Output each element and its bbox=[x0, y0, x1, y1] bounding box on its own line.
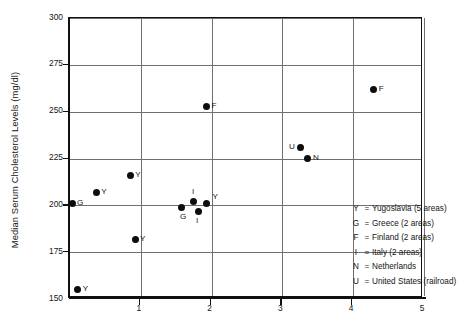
data-point bbox=[195, 208, 202, 215]
gridline-horizontal bbox=[70, 112, 421, 113]
legend-label: Italy (2 areas) bbox=[372, 248, 461, 257]
legend-label: Finland (2 areas) bbox=[372, 233, 461, 242]
legend-key: Y bbox=[350, 204, 362, 213]
data-point-label: U bbox=[289, 143, 295, 151]
gridline-vertical bbox=[282, 18, 283, 296]
data-point-label: G bbox=[180, 213, 186, 221]
legend: Y=Yugoslavia (5 areas)G=Greece (2 areas)… bbox=[350, 204, 461, 292]
legend-equals-sign: = bbox=[362, 219, 372, 228]
y-tick-label: 175 bbox=[29, 247, 63, 255]
legend-row: F=Finland (2 areas) bbox=[350, 233, 461, 248]
x-tick-mark bbox=[280, 299, 281, 305]
x-tick-mark bbox=[210, 299, 211, 305]
legend-key: G bbox=[350, 219, 362, 228]
x-tick-label: 5 bbox=[412, 303, 432, 313]
legend-row: N=Netherlands bbox=[350, 262, 461, 277]
data-point-label: N bbox=[313, 154, 319, 162]
y-tick-label: 250 bbox=[29, 106, 63, 114]
legend-label: Netherlands bbox=[372, 262, 461, 271]
legend-equals-sign: = bbox=[362, 248, 372, 257]
data-point-label: Y bbox=[83, 285, 88, 293]
data-point-label: F bbox=[379, 85, 384, 93]
legend-row: Y=Yugoslavia (5 areas) bbox=[350, 204, 461, 219]
legend-row: U=United States (railroad) bbox=[350, 277, 461, 292]
legend-row: G=Greece (2 areas) bbox=[350, 219, 461, 234]
legend-equals-sign: = bbox=[362, 277, 372, 286]
legend-key: F bbox=[350, 233, 362, 242]
y-tick-label: 275 bbox=[29, 59, 63, 67]
data-point bbox=[93, 189, 100, 196]
data-point-label: Y bbox=[135, 171, 140, 179]
data-point bbox=[203, 103, 210, 110]
data-point bbox=[132, 236, 139, 243]
gridline-horizontal bbox=[70, 65, 421, 66]
data-point-label: Y bbox=[101, 188, 106, 196]
data-point-label: Y bbox=[140, 235, 145, 243]
data-point bbox=[178, 204, 185, 211]
y-tick-label: 150 bbox=[29, 294, 63, 302]
data-point-label: I bbox=[192, 188, 194, 196]
data-point-label: F bbox=[212, 102, 217, 110]
data-point-label: Y bbox=[213, 193, 218, 201]
legend-key: I bbox=[350, 248, 362, 257]
gridline-vertical bbox=[141, 18, 142, 296]
legend-equals-sign: = bbox=[362, 233, 372, 242]
x-tick-mark bbox=[139, 299, 140, 305]
gridline-vertical bbox=[212, 18, 213, 296]
data-point-label: G bbox=[77, 199, 83, 207]
legend-label: United States (railroad) bbox=[372, 277, 461, 286]
data-point bbox=[74, 286, 81, 293]
gridline-horizontal bbox=[70, 18, 421, 19]
data-point-label: I bbox=[196, 217, 198, 225]
data-point bbox=[297, 144, 304, 151]
x-tick-mark bbox=[351, 299, 352, 305]
data-point bbox=[370, 86, 377, 93]
legend-equals-sign: = bbox=[362, 262, 372, 271]
legend-equals-sign: = bbox=[362, 204, 372, 213]
y-axis-title: Median Serum Cholesterol Levels (mg/dl) bbox=[6, 25, 22, 295]
y-tick-label: 225 bbox=[29, 153, 63, 161]
data-point bbox=[304, 155, 311, 162]
gridline-horizontal bbox=[70, 159, 421, 160]
plot-area: YGYYYGIIYFUNF Y=Yugoslavia (5 areas)G=Gr… bbox=[68, 17, 422, 298]
data-point bbox=[127, 172, 134, 179]
legend-label: Greece (2 areas) bbox=[372, 219, 461, 228]
data-point bbox=[69, 200, 76, 207]
data-point bbox=[190, 198, 197, 205]
y-tick-label: 300 bbox=[29, 13, 63, 21]
legend-key: N bbox=[350, 262, 362, 271]
legend-key: U bbox=[350, 277, 362, 286]
y-axis-title-text: Median Serum Cholesterol Levels (mg/dl) bbox=[9, 72, 20, 248]
legend-label: Yugoslavia (5 areas) bbox=[372, 204, 461, 213]
plot-inner: YGYYYGIIYFUNF Y=Yugoslavia (5 areas)G=Gr… bbox=[70, 18, 421, 296]
legend-row: I=Italy (2 areas) bbox=[350, 248, 461, 263]
y-tick-label: 200 bbox=[29, 200, 63, 208]
